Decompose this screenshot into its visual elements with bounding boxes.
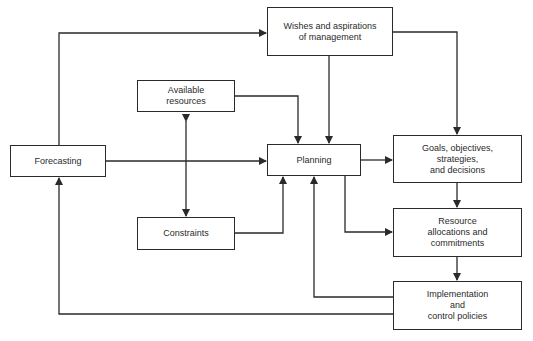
edge-implementation-to-planning — [314, 177, 393, 297]
node-constraints: Constraints — [137, 217, 235, 250]
edge-resources-to-planning — [235, 96, 298, 143]
edge-wishes-to-goals — [393, 32, 457, 134]
node-goals: Goals, objectives, strategies, and decis… — [393, 135, 522, 183]
node-implementation: Implementation and control policies — [393, 281, 522, 330]
node-planning: Planning — [267, 144, 361, 176]
node-forecasting: Forecasting — [10, 145, 106, 177]
node-resource-allocations: Resource allocations and commitments — [393, 208, 522, 257]
edge-planning-to-allocations — [345, 176, 392, 232]
edge-constraints-to-planning — [235, 177, 283, 233]
node-available-resources: Available resources — [137, 80, 235, 112]
node-wishes: Wishes and aspirations of management — [267, 7, 393, 56]
